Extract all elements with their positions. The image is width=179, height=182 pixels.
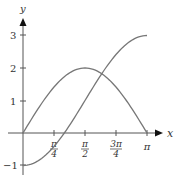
y-axis-arrow-icon: [20, 18, 27, 26]
chart: x y 3 2 1 −1 π 4 π 2 3π 4 π: [0, 0, 179, 182]
y-tick-3: 3: [10, 30, 16, 41]
x-axis-arrow-icon: [155, 130, 163, 137]
y-axis-label: y: [19, 3, 26, 14]
x-tick-pi-2-den: 2: [81, 149, 88, 159]
x-axis-label: x: [167, 127, 174, 140]
y-tick-1: 1: [10, 96, 16, 107]
x-tick-3pi-4-num: 3π: [110, 139, 123, 149]
y-tick-2: 2: [10, 63, 16, 74]
x-tick-pi-2-num: π: [81, 139, 89, 149]
x-tick-pi: π: [143, 141, 151, 152]
y-tick-neg1: −1: [3, 160, 18, 171]
x-tick-3pi-4-den: 4: [112, 149, 119, 159]
